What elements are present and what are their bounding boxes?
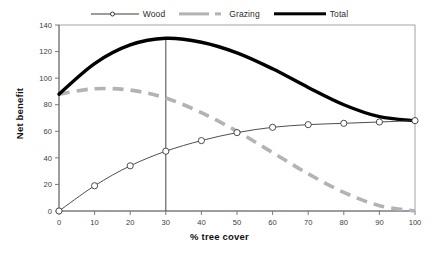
data-point-marker-wood: [198, 137, 204, 143]
x-tick-label: 70: [304, 218, 312, 227]
series-line-grazing: [59, 88, 415, 211]
data-point-marker-wood: [127, 163, 133, 169]
data-point-marker-wood: [56, 208, 62, 214]
y-tick-label: 80: [44, 100, 52, 109]
data-point-marker-wood: [376, 119, 382, 125]
chart-figure: Wood Grazing Total Net benefit % tree co…: [0, 0, 439, 254]
x-tick-label: 30: [162, 218, 170, 227]
x-tick-label: 0: [57, 218, 61, 227]
y-tick-label: 20: [44, 180, 52, 189]
y-tick-label: 0: [48, 207, 52, 216]
y-tick-label: 60: [44, 127, 52, 136]
series-line-total: [59, 38, 415, 120]
x-tick-label: 20: [126, 218, 134, 227]
x-tick-label: 60: [268, 218, 276, 227]
y-axis-ticks: 020406080100120140: [39, 21, 59, 216]
x-tick-label: 90: [375, 218, 383, 227]
data-point-marker-wood: [412, 118, 418, 124]
data-point-marker-wood: [163, 148, 169, 154]
x-tick-label: 10: [90, 218, 98, 227]
data-point-marker-wood: [270, 124, 276, 130]
x-tick-label: 50: [233, 218, 241, 227]
data-point-marker-wood: [341, 120, 347, 126]
y-tick-label: 120: [39, 47, 52, 56]
y-tick-label: 100: [39, 74, 52, 83]
y-tick-label: 140: [39, 21, 52, 30]
x-axis-ticks: 0102030405060708090100: [57, 211, 421, 227]
data-point-marker-wood: [92, 183, 98, 189]
x-tick-label: 100: [409, 218, 422, 227]
data-point-marker-wood: [234, 130, 240, 136]
y-tick-label: 40: [44, 154, 52, 163]
data-point-marker-wood: [305, 122, 311, 128]
x-tick-label: 80: [340, 218, 348, 227]
plot-area: 020406080100120140 010203040506070809010…: [0, 0, 439, 254]
x-tick-label: 40: [197, 218, 205, 227]
